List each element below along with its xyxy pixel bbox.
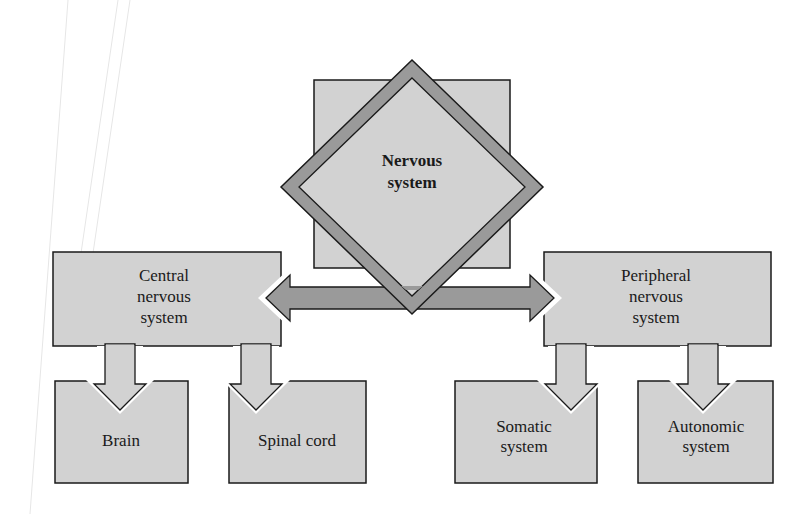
central-label-line2: nervous [137,287,191,306]
spinal-cord-label: Spinal cord [258,431,336,450]
autonomic-label-line1: Autonomic [668,417,745,436]
somatic-label-line1: Somatic [496,417,552,436]
nervous-system-diagram: Nervous system Central nervous system Pe… [0,0,812,514]
root-label-line2: system [387,173,436,192]
peripheral-label-line3: system [632,308,679,327]
peripheral-label-line1: Peripheral [621,266,691,285]
peripheral-label-line2: nervous [629,287,683,306]
brain-label: Brain [102,431,140,450]
autonomic-label-line2: system [682,437,729,456]
central-label-line1: Central [139,266,189,285]
root-label-line1: Nervous [382,151,443,170]
somatic-label-line2: system [500,437,547,456]
central-label-line3: system [140,308,187,327]
